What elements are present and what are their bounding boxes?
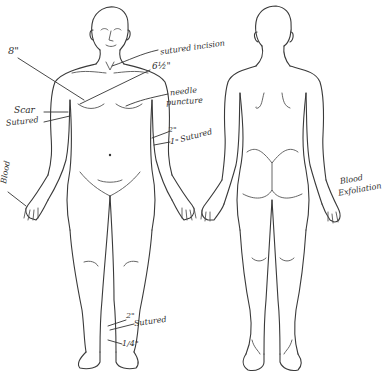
- back-foot-left: [243, 354, 264, 371]
- leader-ankle-quarter: [108, 340, 122, 344]
- note-arm-2in: 2": [168, 126, 177, 134]
- note-scar: Scar: [14, 106, 35, 115]
- leader-arm-2in: [152, 132, 168, 138]
- front-neck-left: [96, 50, 100, 64]
- back-heel-left: [252, 340, 260, 354]
- back-knee-left: [252, 258, 266, 261]
- front-leg-left-inner: [100, 196, 110, 352]
- note-chest-8in: 8": [8, 46, 19, 56]
- leader-sutured-left: [44, 116, 70, 122]
- back-neck-left: [256, 46, 263, 66]
- leader-ankle-sutured: [110, 324, 134, 330]
- front-head: [92, 7, 129, 50]
- front-leg-left-outer: [70, 230, 86, 352]
- note-arm-1in: 1": [170, 138, 179, 146]
- front-navel: [109, 154, 111, 156]
- front-eye-right: [114, 29, 121, 31]
- front-leg-right-outer: [134, 230, 152, 352]
- front-clavicle-left: [72, 71, 106, 73]
- note-ankle-quarter-in: 1/4": [122, 340, 139, 348]
- back-neck-right: [284, 46, 290, 66]
- leader-6-5in: [80, 70, 150, 104]
- back-torso-right: [290, 66, 326, 180]
- back-hand-right: [322, 180, 340, 222]
- back-lumbar: [247, 149, 298, 163]
- front-knee-left: [84, 261, 98, 266]
- leader-ankle-2in: [108, 320, 126, 326]
- back-foot-right: [280, 354, 301, 371]
- front-clavicle-right: [114, 71, 148, 73]
- leader-8in: [18, 58, 84, 100]
- leader-needle-puncture: [126, 94, 168, 106]
- front-nose: [109, 31, 113, 41]
- front-foot-left: [78, 352, 100, 369]
- back-head: [256, 6, 292, 46]
- back-hand-left: [202, 180, 224, 220]
- leader-left-hand: [8, 192, 26, 206]
- back-leg-right-inner: [272, 200, 280, 354]
- back-leg-left-outer: [240, 230, 251, 354]
- annotation-leaders: [8, 50, 170, 344]
- front-eye-left: [101, 29, 108, 31]
- front-groin-left: [80, 172, 110, 196]
- back-gluteal-fold: [243, 190, 302, 198]
- back-scapula-right: [282, 93, 290, 108]
- back-heel-right: [284, 340, 292, 354]
- front-torso-right: [124, 64, 172, 175]
- back-figure: [201, 6, 340, 371]
- front-pubic: [98, 180, 122, 182]
- back-knee-right: [280, 258, 294, 261]
- front-foot-right: [116, 352, 138, 369]
- back-leg-left-inner: [264, 200, 272, 354]
- front-groin-right: [110, 172, 140, 196]
- back-scapula-left: [256, 93, 264, 108]
- front-mouth: [106, 45, 116, 47]
- note-chest-6-5in: 6½": [152, 62, 171, 71]
- front-pec-left: [78, 104, 104, 109]
- back-leg-right-outer: [295, 230, 306, 354]
- front-knee-right: [124, 261, 138, 266]
- leader-arm-1in: [154, 142, 170, 145]
